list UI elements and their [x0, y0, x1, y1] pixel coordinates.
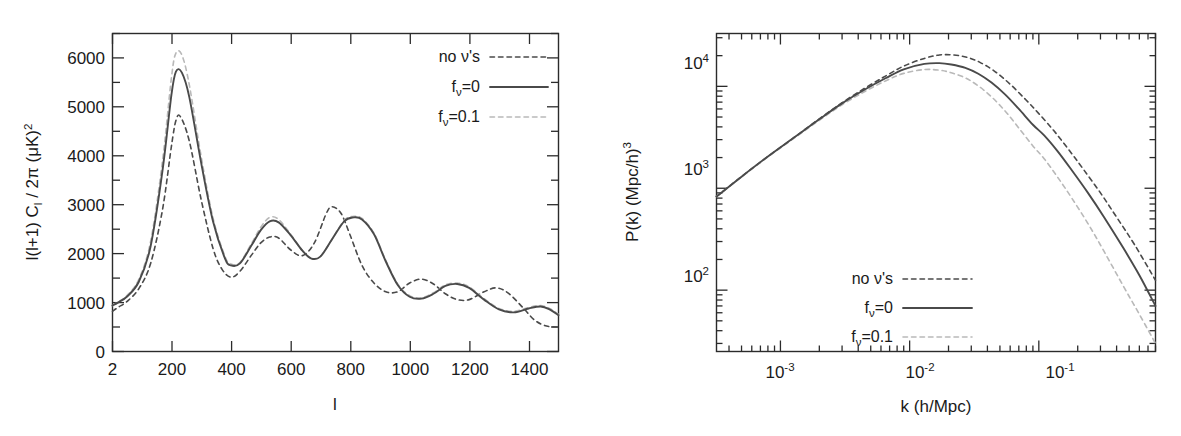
y-tick-label: 0	[96, 343, 105, 362]
pk-chart-svg: 102 103 104 10-3 10-2 10-1 k (h/Mpc) P(k…	[590, 0, 1181, 436]
legend-fnu0-rest: =0	[875, 299, 893, 316]
x-tick-label-1e-1: 10-1	[1045, 361, 1074, 382]
y-tick-label: 2000	[67, 245, 105, 264]
pk-axis-ticks	[717, 34, 1156, 352]
y-axis-title: P(k) (Mpc/h)3	[621, 142, 642, 242]
x-axis-title: l	[333, 395, 337, 414]
y-tick-label: 4000	[67, 147, 105, 166]
plot-frame	[717, 34, 1156, 352]
svg-text:P(k) (Mpc/h)3: P(k) (Mpc/h)3	[621, 142, 642, 242]
svg-text:l(l+1) Cl / 2π (μK)2: l(l+1) Cl / 2π (μK)2	[22, 124, 44, 261]
x-tick-label: 800	[337, 360, 365, 379]
series-fnu-0-line	[717, 63, 1156, 306]
y-tick-label: 5000	[67, 98, 105, 117]
x-tick-label: 200	[158, 360, 186, 379]
x-tick-label: 1400	[511, 360, 549, 379]
y-tick-label: 1000	[67, 294, 105, 313]
y-tick-labels: 102 103 104	[684, 52, 710, 286]
series-fnu-0p1-line	[113, 51, 559, 315]
x-tick-label: 400	[217, 360, 245, 379]
y-tick-label: 6000	[67, 49, 105, 68]
legend-fnu01-rest: =0.1	[448, 108, 480, 125]
legend-label-no-neutrinos: no ν's	[852, 270, 893, 287]
y-tick-label-1e3: 103	[684, 158, 709, 179]
cmb-chart-svg: 0 1000 2000 3000 4000 5000 6000 2 200 40…	[0, 0, 590, 436]
legend-label-no-neutrinos: no ν's	[439, 48, 480, 65]
x-tick-label: 1000	[391, 360, 429, 379]
legend-fnu0-rest: =0	[462, 78, 480, 95]
legend-label-fnu-0p1: fν=0.1	[851, 328, 893, 348]
series-no-neutrinos-line	[113, 115, 559, 327]
y-axis-title-part2: / 2π (μK)	[23, 130, 42, 203]
legend-label-fnu-0: fν=0	[452, 78, 481, 98]
legend-fnu01-rest: =0.1	[861, 328, 893, 345]
cmb-curves	[113, 51, 559, 327]
x-tick-label: 2	[108, 360, 117, 379]
y-tick-label-1e4: 104	[684, 52, 710, 73]
x-tick-label: 1200	[451, 360, 489, 379]
legend-label-fnu-0: fν=0	[865, 299, 894, 319]
x-tick-labels: 10-3 10-2 10-1	[765, 361, 1074, 382]
series-no-neutrinos-line	[717, 55, 1156, 281]
x-tick-label-1e-2: 10-2	[905, 361, 934, 382]
y-axis-title: l(l+1) Cl / 2π (μK)2	[22, 124, 44, 261]
legend: no ν's fν=0 fν=0.1	[851, 270, 972, 348]
series-fnu-0p1-line	[717, 69, 1156, 343]
series-fnu-0-line	[113, 69, 559, 315]
y-axis-title-part1: l(l+1) C	[23, 205, 42, 260]
x-tick-labels: 2 200 400 600 800 1000 1200 1400	[108, 360, 549, 379]
panel-matter-power-spectrum: 102 103 104 10-3 10-2 10-1 k (h/Mpc) P(k…	[590, 0, 1181, 436]
panel-cmb-power-spectrum: 0 1000 2000 3000 4000 5000 6000 2 200 40…	[0, 0, 590, 436]
x-tick-label-1e-3: 10-3	[765, 361, 794, 382]
y-tick-label: 3000	[67, 196, 105, 215]
x-tick-label: 600	[277, 360, 305, 379]
y-tick-labels: 0 1000 2000 3000 4000 5000 6000	[67, 49, 105, 362]
figure-root: 0 1000 2000 3000 4000 5000 6000 2 200 40…	[0, 0, 1181, 436]
y-axis-title-part1: P(k) (Mpc/h)	[623, 148, 642, 242]
y-axis-title-sup: 2	[22, 124, 34, 130]
pk-curves	[717, 55, 1156, 344]
x-axis-title: k (h/Mpc)	[901, 397, 972, 416]
legend: no ν's fν=0 fν=0.1	[438, 48, 548, 128]
y-tick-label-1e2: 102	[684, 265, 709, 286]
y-axis-title-sup: 3	[621, 142, 633, 148]
legend-label-fnu-0p1: fν=0.1	[438, 108, 480, 128]
